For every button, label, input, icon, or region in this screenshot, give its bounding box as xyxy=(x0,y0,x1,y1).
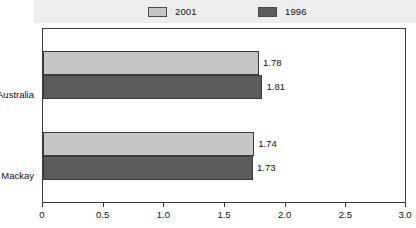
axis-tick-label: 0.5 xyxy=(96,210,109,220)
axis-tick xyxy=(345,203,346,207)
axis-tick xyxy=(42,203,43,207)
legend-label-2001: 2001 xyxy=(175,7,197,17)
axis-tick xyxy=(163,203,164,207)
bar-value-australia-2001: 1.78 xyxy=(263,58,282,68)
legend-item-2001: 2001 xyxy=(148,5,197,18)
bar-mackay-1996 xyxy=(43,156,253,180)
bar-mackay-2001 xyxy=(43,132,254,156)
legend-swatch-2001 xyxy=(148,7,167,17)
axis-tick xyxy=(285,203,286,207)
category-axis-labels: Australia Mackay xyxy=(0,28,42,203)
plot-area: 1.78 1.81 1.74 1.73 xyxy=(42,28,406,203)
axis-tick xyxy=(405,203,406,207)
legend-item-1996: 1996 xyxy=(258,5,307,18)
bar-australia-1996 xyxy=(43,75,262,99)
axis-tick-label: 1.5 xyxy=(217,210,230,220)
axis-tick-label: 3.0 xyxy=(398,210,411,220)
category-label-mackay: Mackay xyxy=(1,171,34,181)
axis-tick-label: 2.5 xyxy=(339,210,352,220)
chart-legend: 2001 1996 xyxy=(34,0,416,23)
legend-label-1996: 1996 xyxy=(285,7,307,17)
bar-value-mackay-1996: 1.73 xyxy=(257,163,276,173)
axis-tick-label: 1.0 xyxy=(157,210,170,220)
axis-tick xyxy=(224,203,225,207)
value-axis: 0 0.5 1.0 1.5 2.0 2.5 3.0 xyxy=(42,203,406,228)
axis-tick-label: 2.0 xyxy=(278,210,291,220)
bar-chart-figure: 2001 1996 Australia Mackay 1.78 1.81 1.7… xyxy=(0,0,416,228)
bar-value-australia-1996: 1.81 xyxy=(267,82,286,92)
axis-tick-label: 0 xyxy=(39,210,44,220)
legend-swatch-1996 xyxy=(258,7,277,17)
bar-value-mackay-2001: 1.74 xyxy=(258,139,277,149)
axis-tick xyxy=(103,203,104,207)
category-label-australia: Australia xyxy=(0,90,34,100)
bar-australia-2001 xyxy=(43,51,259,75)
